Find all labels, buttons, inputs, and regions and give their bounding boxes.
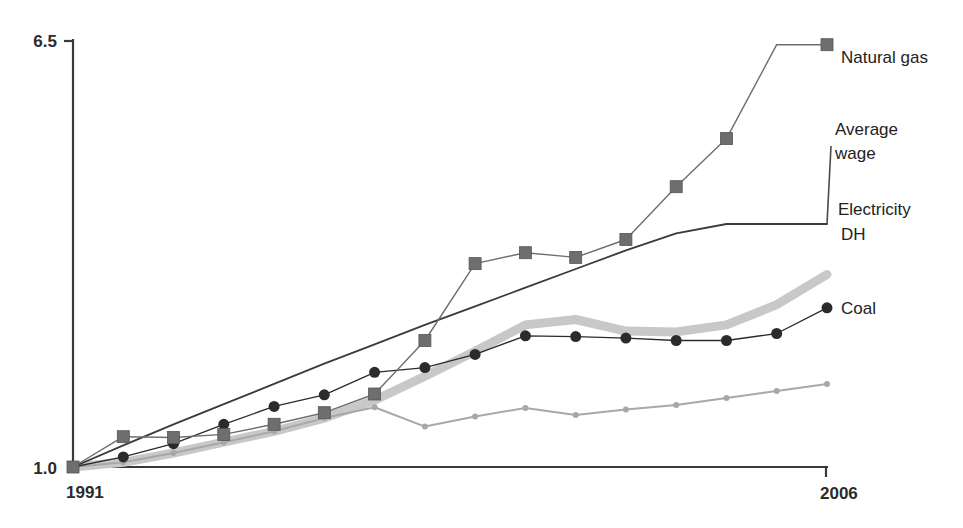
data-point-marker [620,234,632,246]
data-point-marker [268,418,280,430]
data-point-marker [171,450,177,456]
data-point-marker [372,404,378,410]
x-axis-start-label: 1991 [66,483,104,502]
series-line [73,275,827,468]
x-axis-end-label: 2006 [820,484,858,503]
y-axis-bottom-label: 1.0 [33,459,57,478]
data-point-marker [520,330,531,341]
data-point-marker [774,388,780,394]
series-label-average-wage-line1: Average [835,120,898,139]
line-chart-plot: 6.5 1.0 1991 2006 Natural gas Average wa… [0,0,963,528]
data-point-marker [369,388,381,400]
data-point-marker [318,407,330,419]
data-point-marker [673,402,679,408]
series-label-dh: DH [841,225,866,244]
data-point-marker [721,335,732,346]
data-point-marker [620,333,631,344]
leader-line-layer [827,146,831,224]
data-point-marker [369,367,380,378]
data-point-marker [522,405,528,411]
data-point-marker [218,428,230,440]
data-point-marker [67,461,79,473]
data-point-marker [822,302,833,313]
data-point-marker [519,247,531,259]
series-label-natural-gas: Natural gas [841,48,928,67]
data-point-marker [671,335,682,346]
data-point-marker [472,414,478,420]
series-label-coal: Coal [841,299,876,318]
series-layer [67,39,833,473]
data-point-marker [469,258,481,270]
series-line [73,308,827,467]
y-axis-top-label: 6.5 [33,32,57,51]
series-label-average-wage-line2: wage [834,144,876,163]
data-point-marker [419,335,431,347]
data-point-marker [422,424,428,430]
series-label-electricity: Electricity [838,200,911,219]
data-point-marker [269,401,280,412]
series-coal [70,381,830,470]
data-point-marker [570,331,581,342]
series-line [73,45,827,467]
series-line [73,224,827,467]
data-point-marker [724,395,730,401]
data-point-marker [824,381,830,387]
data-point-marker [623,407,629,413]
data-point-marker [721,133,733,145]
series-electricity [73,275,827,468]
chart-container: 6.5 1.0 1991 2006 Natural gas Average wa… [0,0,963,528]
data-point-marker [771,328,782,339]
data-point-marker [118,451,129,462]
data-point-marker [821,39,833,51]
data-point-marker [670,181,682,193]
data-point-marker [573,412,579,418]
data-point-marker [319,389,330,400]
data-point-marker [168,432,180,444]
series-average-wage [73,224,827,467]
data-point-marker [470,349,481,360]
data-point-marker [570,251,582,263]
leader-line-average-wage [827,146,831,224]
data-point-marker [419,362,430,373]
data-point-marker [117,431,129,443]
series-natural-gas [67,39,833,473]
